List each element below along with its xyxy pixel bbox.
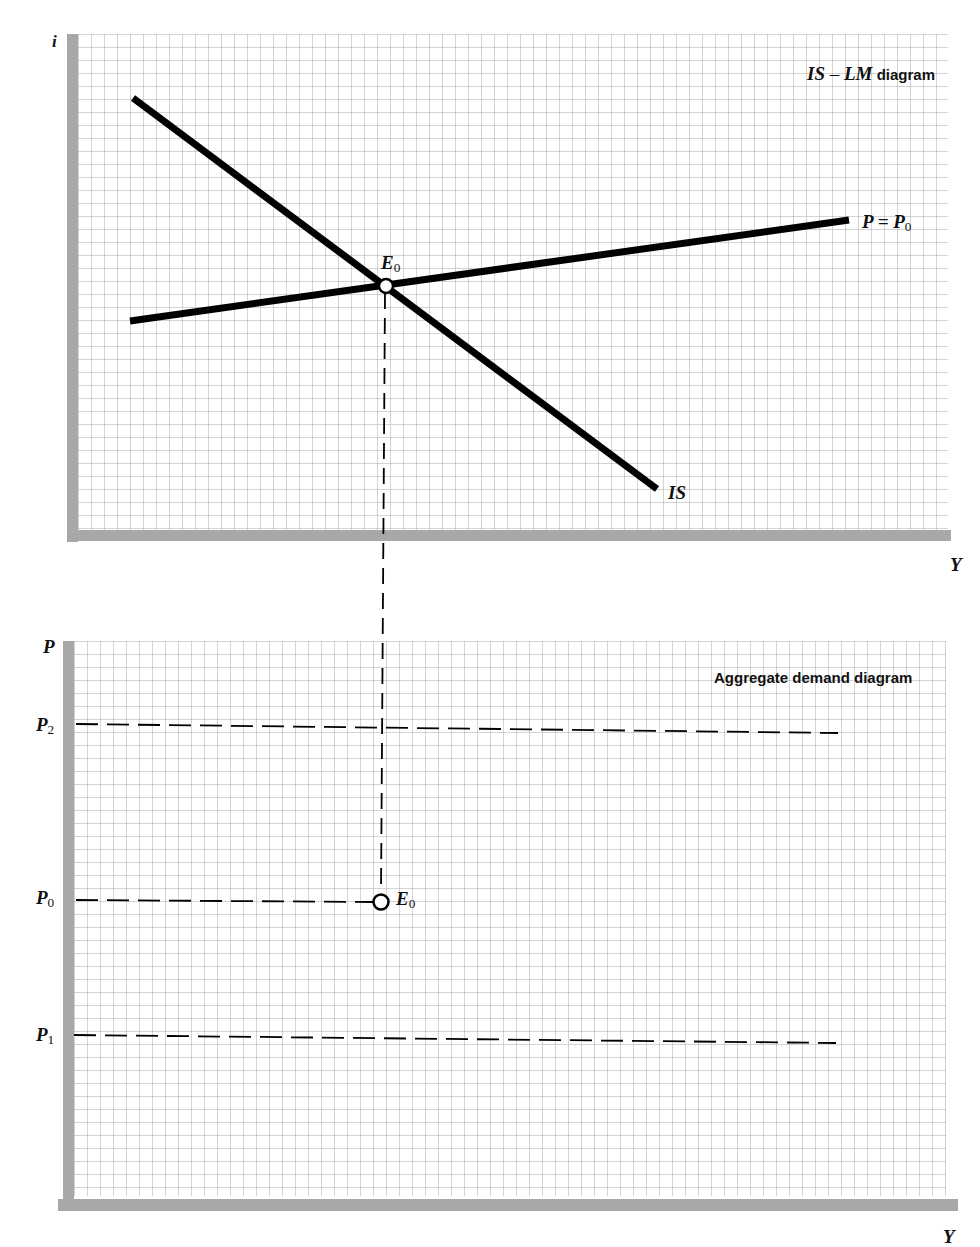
price-level-p0-line (76, 900, 373, 902)
price-level-p2-line (76, 724, 838, 733)
ad-equilibrium-point (374, 895, 389, 910)
projection-dashed-line (381, 293, 385, 893)
diagram-lines (0, 0, 980, 1247)
is-curve (133, 98, 657, 489)
lm-curve (130, 220, 849, 321)
price-level-p1-line (74, 1035, 836, 1043)
is-lm-equilibrium-point (379, 279, 393, 293)
